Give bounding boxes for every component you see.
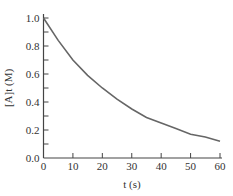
y-axis-label: [A]t (M) <box>2 69 15 108</box>
x-tick-label: 20 <box>97 160 109 172</box>
x-tick-label: 60 <box>215 160 227 172</box>
y-tick-label: 0.6 <box>26 68 40 80</box>
y-tick-label: 0.8 <box>26 40 40 52</box>
x-tick-label: 50 <box>185 160 197 172</box>
x-tick-label: 0 <box>41 160 47 172</box>
concentration-curve <box>44 18 221 141</box>
decay-chart: 01020304050600.00.20.40.60.81.0 t (s) [A… <box>0 0 233 196</box>
y-tick-label: 0.4 <box>26 96 40 108</box>
y-tick-label: 0.0 <box>26 152 40 164</box>
x-tick-label: 40 <box>156 160 168 172</box>
x-axis-label: t (s) <box>123 178 141 191</box>
axes <box>44 14 223 158</box>
y-tick-label: 0.2 <box>26 124 40 136</box>
y-tick-label: 1.0 <box>26 12 40 24</box>
x-tick-label: 30 <box>126 160 138 172</box>
x-tick-label: 10 <box>67 160 79 172</box>
